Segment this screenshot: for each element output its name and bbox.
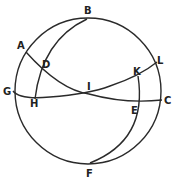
- point-label-b: B: [84, 5, 92, 16]
- spherical-diagram: A B C D E F G H I K L: [0, 0, 177, 185]
- point-label-f: F: [86, 168, 93, 179]
- point-label-l: L: [157, 55, 164, 66]
- point-label-e: E: [131, 105, 138, 116]
- point-label-a: A: [17, 40, 25, 51]
- point-label-d: D: [42, 59, 50, 70]
- point-label-k: K: [133, 66, 142, 77]
- point-label-h: H: [30, 98, 38, 109]
- point-label-g: G: [3, 86, 11, 97]
- point-label-c: C: [164, 95, 171, 106]
- point-label-i: I: [87, 81, 91, 92]
